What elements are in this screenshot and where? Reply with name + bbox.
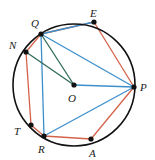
- point-q: [38, 31, 43, 36]
- seg-N-O: [26, 52, 74, 85]
- label-o: O: [68, 93, 76, 104]
- seg-R-P: [44, 87, 134, 136]
- point-t: [28, 122, 33, 127]
- seg-Q-O: [41, 34, 74, 85]
- segments-layer: [26, 22, 134, 139]
- label-r: R: [38, 144, 45, 155]
- point-n: [23, 49, 28, 54]
- point-o: [71, 82, 76, 87]
- seg-N-Q: [26, 34, 41, 52]
- point-p: [131, 84, 136, 89]
- seg-O-P: [74, 85, 134, 87]
- seg-T-N: [26, 52, 31, 125]
- seg-E-P: [94, 22, 134, 87]
- label-a: A: [89, 148, 96, 159]
- seg-Q-P: [41, 34, 134, 87]
- label-q: Q: [31, 18, 39, 29]
- circle-diagram-canvas: [0, 0, 155, 160]
- label-t: T: [14, 126, 20, 137]
- point-e: [91, 19, 96, 24]
- seg-Q-R: [41, 34, 44, 136]
- geometry-figure: QENPTRAO: [0, 0, 155, 160]
- label-p: P: [140, 82, 147, 93]
- point-a: [88, 136, 93, 141]
- point-r: [41, 133, 46, 138]
- seg-A-R: [44, 136, 91, 139]
- label-e: E: [90, 8, 97, 19]
- label-n: N: [9, 40, 16, 51]
- points-layer: [23, 19, 136, 141]
